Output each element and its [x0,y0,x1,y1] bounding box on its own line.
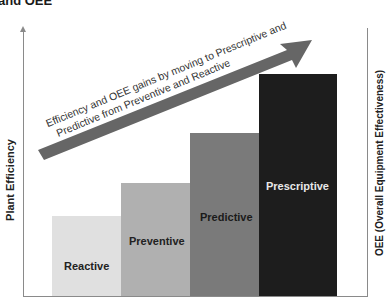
growth-arrow-icon [0,0,390,302]
